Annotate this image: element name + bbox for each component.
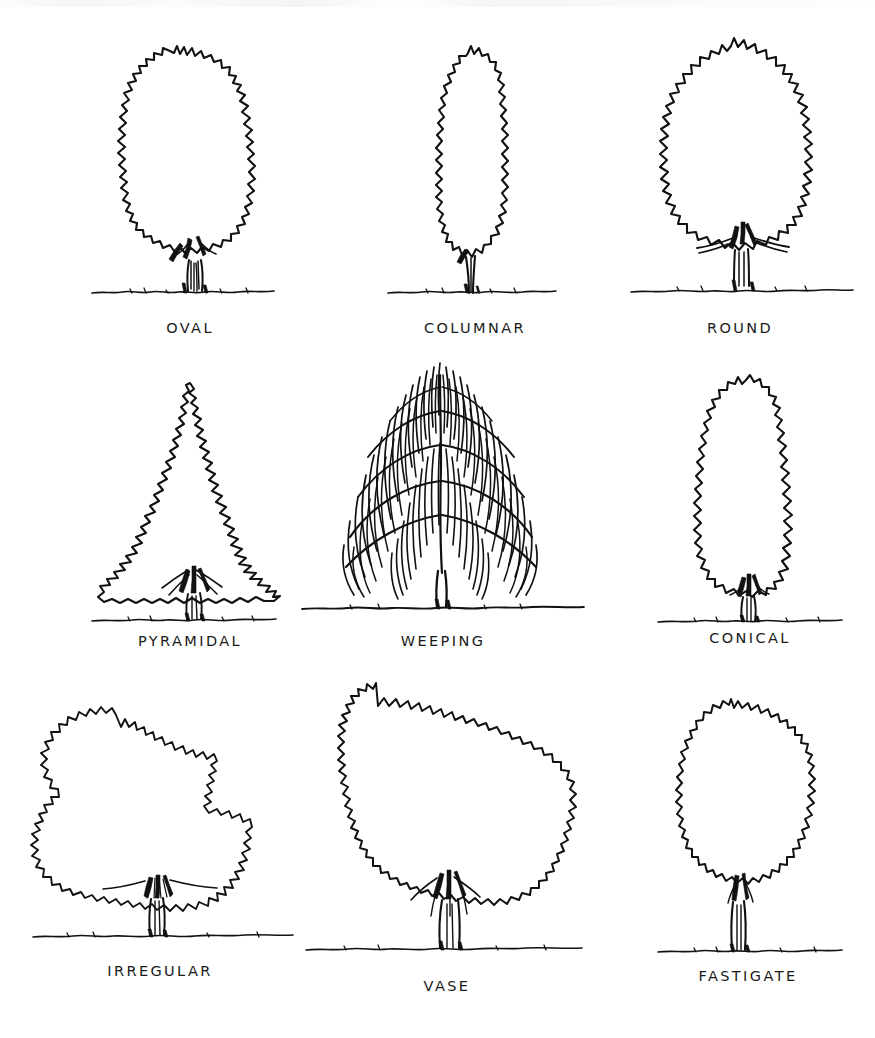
weeping-tree-drawing — [288, 345, 598, 625]
fastigate-tree-drawing — [648, 690, 848, 960]
round-tree-drawing — [615, 30, 865, 310]
columnar-tree-drawing — [380, 35, 570, 310]
figure-cell-fastigate: FASTIGATE — [648, 690, 848, 995]
figure-cell-round: ROUND — [615, 30, 865, 345]
figure-label-weeping: WEEPING — [288, 633, 598, 649]
figure-label-pyramidal: PYRAMIDAL — [70, 633, 310, 649]
figure-label-columnar: COLUMNAR — [380, 320, 570, 336]
figure-cell-irregular: IRREGULAR — [15, 695, 305, 995]
tree-shape-grid: OVAL COLUMNAR — [0, 0, 875, 1038]
figure-label-conical: CONICAL — [650, 630, 850, 646]
conical-tree-drawing — [650, 372, 850, 624]
figure-label-round: ROUND — [615, 320, 865, 336]
irregular-tree-drawing — [15, 695, 305, 960]
vase-tree-drawing — [282, 680, 612, 963]
figure-label-vase: VASE — [282, 978, 612, 994]
illustration-sheet: OVAL COLUMNAR — [0, 0, 875, 1038]
figure-cell-conical: CONICAL — [650, 372, 850, 660]
figure-cell-weeping: WEEPING — [288, 345, 598, 660]
figure-label-irregular: IRREGULAR — [15, 963, 305, 979]
figure-cell-oval: OVAL — [70, 35, 310, 345]
figure-cell-columnar: COLUMNAR — [380, 35, 570, 345]
oval-tree-drawing — [70, 35, 310, 310]
figure-label-oval: OVAL — [70, 320, 310, 336]
figure-label-fastigate: FASTIGATE — [648, 968, 848, 984]
figure-cell-pyramidal: PYRAMIDAL — [70, 375, 310, 660]
pyramidal-tree-drawing — [70, 375, 310, 625]
figure-cell-vase: VASE — [282, 680, 612, 995]
